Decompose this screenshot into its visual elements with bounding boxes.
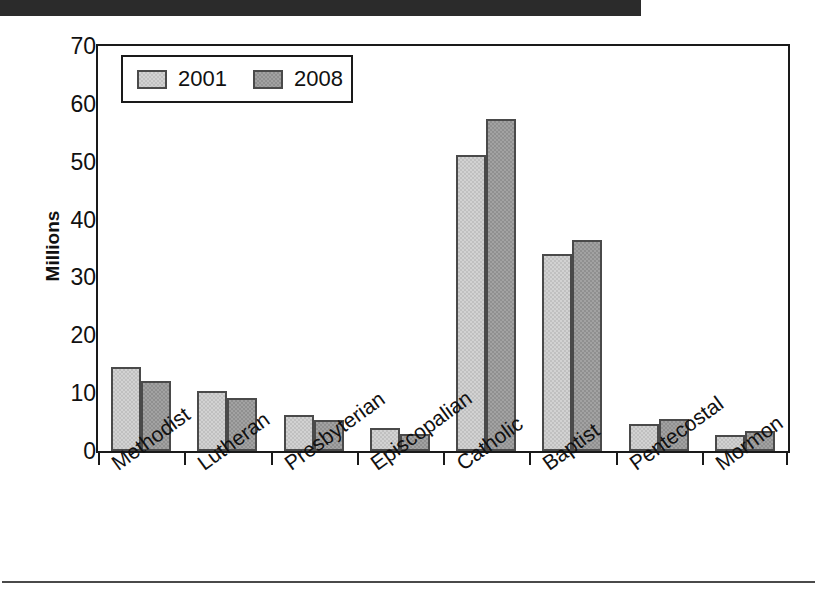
bar-group xyxy=(98,46,184,451)
legend-swatch-icon xyxy=(137,70,167,89)
bar-group xyxy=(702,46,788,451)
legend-entry-2001: 2001 xyxy=(137,68,227,90)
bar-baptist-2001 xyxy=(542,254,572,451)
top-black-banner xyxy=(0,0,641,16)
y-tick-label: 20 xyxy=(56,324,96,347)
bar-catholic-2008 xyxy=(486,119,516,451)
y-tick-label: 60 xyxy=(56,92,96,115)
y-axis-ticks: 010203040506070 xyxy=(56,16,96,578)
y-tick-label: 30 xyxy=(56,266,96,289)
legend-label: 2001 xyxy=(178,68,227,90)
bar-group xyxy=(529,46,615,451)
bar-group xyxy=(616,46,702,451)
legend-swatch-icon xyxy=(253,70,283,89)
plot-area xyxy=(98,46,788,451)
bar-group xyxy=(271,46,357,451)
bar-chart-figure: Millions 010203040506070 MethodistLuther… xyxy=(0,16,817,578)
legend-label: 2008 xyxy=(294,68,343,90)
legend-entry-2008: 2008 xyxy=(253,68,343,90)
y-tick-label: 10 xyxy=(56,382,96,405)
y-tick-label: 50 xyxy=(56,150,96,173)
chart-legend: 20012008 xyxy=(121,55,353,103)
y-tick-label: 70 xyxy=(56,35,96,58)
y-tick-label: 0 xyxy=(56,440,96,463)
x-axis-labels: MethodistLutheranPresbyterianEpiscopalia… xyxy=(98,456,808,576)
bottom-horizontal-rule xyxy=(2,581,815,583)
bar-group xyxy=(184,46,270,451)
y-tick-label: 40 xyxy=(56,208,96,231)
